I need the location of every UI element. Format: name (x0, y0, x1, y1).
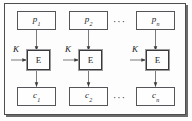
encrypt-label-2: E (88, 56, 94, 65)
ellipsis-top: ··· (113, 17, 126, 27)
plaintext-box-2[interactable]: p2 (69, 11, 108, 30)
key-label-2: K (65, 45, 71, 54)
ciphertext-label-2: c2 (85, 91, 92, 102)
encrypt-box-1[interactable]: E (27, 50, 50, 70)
ciphertext-box-n[interactable]: cn (136, 87, 175, 106)
plaintext-label-n: pn (152, 15, 160, 26)
plaintext-label-2: p2 (85, 15, 93, 26)
encrypt-box-2[interactable]: E (79, 50, 102, 70)
plaintext-label-1: p1 (33, 15, 41, 26)
ciphertext-box-1[interactable]: c1 (17, 87, 56, 106)
plaintext-box-n[interactable]: pn (136, 11, 175, 30)
figure-root: p1 p2 ··· pn K E K E K E c1 c2 ··· cn (0, 0, 192, 121)
ellipsis-bottom: ··· (113, 93, 126, 103)
ciphertext-label-1: c1 (33, 91, 40, 102)
ciphertext-label-n: cn (152, 91, 159, 102)
encrypt-label-1: E (36, 56, 42, 65)
key-label-1: K (13, 45, 19, 54)
encrypt-box-n[interactable]: E (146, 50, 169, 70)
encrypt-label-n: E (155, 56, 161, 65)
key-label-n: K (132, 45, 138, 54)
ciphertext-box-2[interactable]: c2 (69, 87, 108, 106)
plaintext-box-1[interactable]: p1 (17, 11, 56, 30)
